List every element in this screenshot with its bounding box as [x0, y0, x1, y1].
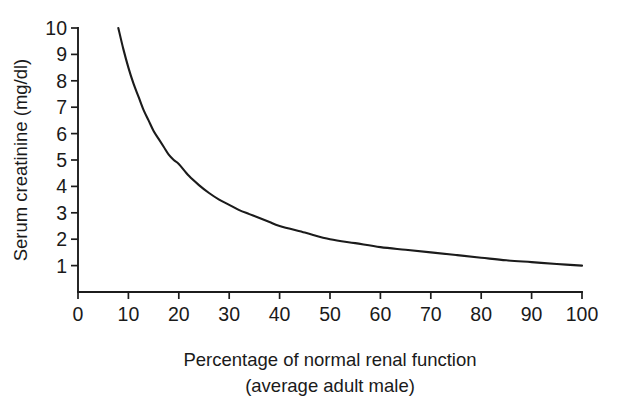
- y-tick-label: 2: [56, 228, 67, 250]
- y-tick-label: 9: [56, 43, 67, 65]
- y-tick-label: 5: [56, 149, 67, 171]
- y-axis-ticks: [71, 28, 78, 266]
- x-axis-title-line1: Percentage of normal renal function: [183, 349, 476, 370]
- y-axis: 12345678910: [45, 17, 78, 292]
- y-tick-label: 6: [56, 123, 67, 145]
- x-tick-label: 60: [370, 303, 392, 325]
- x-tick-label: 80: [470, 303, 492, 325]
- chart-plot-area: 12345678910 0102030405060708090100 Serum…: [0, 0, 619, 411]
- y-tick-label: 4: [56, 175, 67, 197]
- x-axis-ticks: [78, 292, 582, 299]
- y-tick-label: 1: [56, 255, 67, 277]
- y-tick-label: 7: [56, 96, 67, 118]
- y-tick-label: 3: [56, 202, 67, 224]
- x-tick-label: 20: [168, 303, 190, 325]
- x-axis: 0102030405060708090100: [73, 292, 599, 325]
- y-tick-label: 10: [45, 17, 67, 39]
- chart-figure: 12345678910 0102030405060708090100 Serum…: [0, 0, 619, 411]
- x-tick-label: 50: [319, 303, 341, 325]
- y-axis-title: Serum creatinine (mg/dl): [10, 59, 31, 262]
- x-axis-tick-labels: 0102030405060708090100: [73, 303, 599, 325]
- x-axis-title-line2: (average adult male): [245, 375, 415, 396]
- x-tick-label: 40: [269, 303, 291, 325]
- x-tick-label: 10: [118, 303, 140, 325]
- x-tick-label: 0: [73, 303, 84, 325]
- y-axis-tick-labels: 12345678910: [45, 17, 67, 277]
- x-tick-label: 100: [566, 303, 599, 325]
- serum-creatinine-curve: [118, 28, 582, 266]
- x-tick-label: 30: [218, 303, 240, 325]
- x-tick-label: 90: [521, 303, 543, 325]
- y-tick-label: 8: [56, 70, 67, 92]
- x-tick-label: 70: [420, 303, 442, 325]
